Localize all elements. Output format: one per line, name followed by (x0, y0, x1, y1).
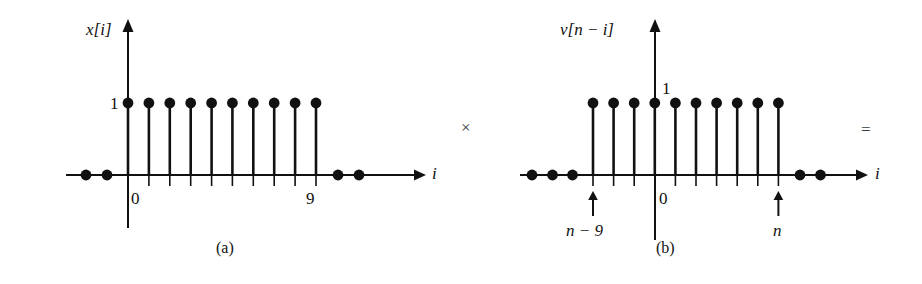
panel-b: v[n − i] i 1 0 n − 9 n (b) (460, 0, 922, 284)
x-axis-a (66, 170, 426, 181)
stem-markers-b (588, 98, 784, 109)
tick-label-b-0: 0 (659, 190, 668, 207)
x-axis-ticks-b (593, 175, 778, 186)
panel-a: x[i] i 1 0 9 (a) (0, 0, 460, 284)
stem-series-b (593, 104, 778, 175)
amplitude-label-a: 1 (110, 95, 119, 112)
panel-a-caption: (a) (216, 240, 234, 256)
stem-series-a (128, 104, 316, 175)
annotation-label-n: n (773, 222, 782, 239)
annotation-arrow-right (774, 191, 784, 216)
annotation-label-n-minus-9: n − 9 (566, 222, 603, 239)
x-axis-label-b: i (875, 165, 880, 182)
x-axis-ticks-a (128, 175, 316, 186)
tick-label-a-0: 0 (131, 190, 140, 207)
equals-operator: = (861, 120, 871, 140)
panel-b-caption: (b) (656, 240, 675, 256)
stem-markers-a (123, 98, 322, 109)
y-axis-label-b: v[n − i] (560, 21, 614, 38)
tick-label-a-9: 9 (306, 190, 315, 207)
signal-convolution-figure: x[i] i 1 0 9 (a) × (0, 0, 922, 284)
panel-b-plot (460, 0, 922, 284)
y-axis-label-a: x[i] (86, 21, 112, 38)
annotation-arrow-left (588, 191, 598, 216)
x-axis-label-a: i (432, 165, 437, 182)
amplitude-label-b: 1 (662, 80, 671, 97)
